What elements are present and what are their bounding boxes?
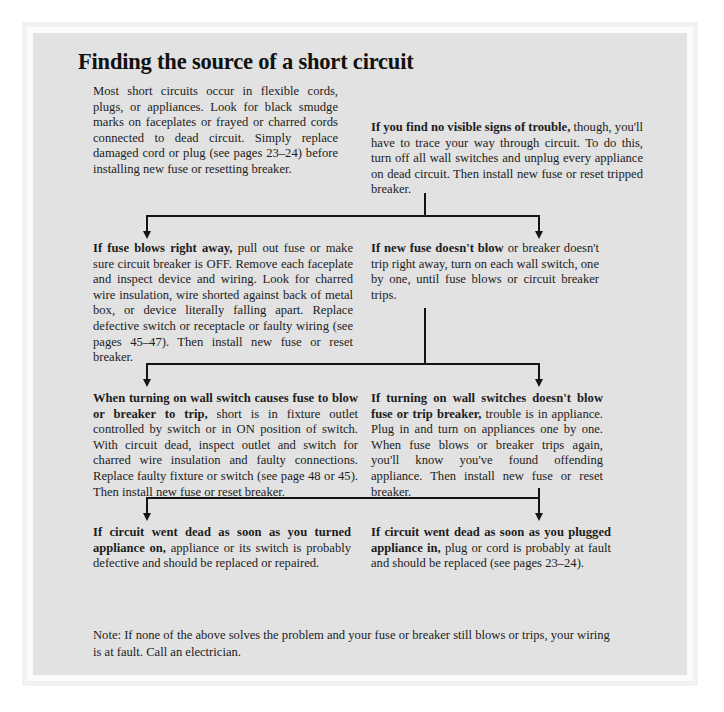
connector-1-left-drop xyxy=(146,215,148,233)
connector-1-right-arrowhead xyxy=(535,231,543,239)
node-dead-when-turned-appliance-on: If circuit went dead as soon as you turn… xyxy=(93,525,351,572)
node-fuse-blows-right-away-lead: If fuse blows right away, xyxy=(93,241,232,255)
diagram-sheet: Finding the source of a short circuit Mo… xyxy=(33,33,687,675)
page-title: Finding the source of a short circuit xyxy=(78,49,648,75)
node-fuse-blows-right-away-rest: pull out fuse or make sure circuit break… xyxy=(93,241,353,364)
page-outer: Finding the source of a short circuit Mo… xyxy=(0,0,724,712)
node-switch-causes-fuse-to-blow: When turning on wall switch causes fuse … xyxy=(93,391,358,500)
diagram-content: Finding the source of a short circuit Mo… xyxy=(33,33,687,675)
footer-note: Note: If none of the above solves the pr… xyxy=(93,627,613,660)
node-switches-dont-blow-fuse: If turning on wall switches doesn't blow… xyxy=(371,391,603,500)
node-new-fuse-doesnt-blow-lead: If new fuse doesn't blow xyxy=(371,241,504,255)
node-new-fuse-doesnt-blow: If new fuse doesn't blow or breaker does… xyxy=(371,241,599,303)
connector-1-bar xyxy=(146,215,540,217)
node-fuse-blows-right-away: If fuse blows right away, pull out fuse … xyxy=(93,241,353,366)
connector-3-right-arrowhead xyxy=(535,513,543,521)
connector-2-right-drop xyxy=(538,363,540,381)
node-no-visible-signs: If you find no visible signs of trouble,… xyxy=(371,120,643,198)
intro-text: Most short circuits occur in flexible co… xyxy=(93,84,338,176)
connector-3-left-arrowhead xyxy=(143,513,151,521)
connector-2-right-arrowhead xyxy=(535,379,543,387)
node-dead-when-plugged-appliance-in: If circuit went dead as soon as you plug… xyxy=(371,525,611,572)
connector-1-right-drop xyxy=(538,215,540,233)
connector-2-left-arrowhead xyxy=(143,379,151,387)
connector-2-stem xyxy=(424,308,426,365)
intro-paragraph: Most short circuits occur in flexible co… xyxy=(93,84,338,178)
node-no-visible-signs-lead: If you find no visible signs of trouble, xyxy=(371,120,570,134)
connector-1-left-arrowhead xyxy=(143,231,151,239)
